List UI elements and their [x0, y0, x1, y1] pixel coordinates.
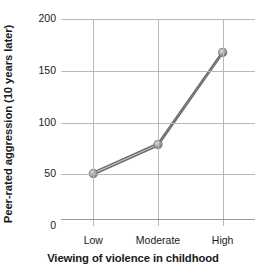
x-axis-tick-labels: LowModerateHigh: [61, 233, 255, 249]
gridline-vertical: [223, 19, 224, 226]
y-axis-tick-label: 200: [20, 13, 56, 24]
gridline-vertical: [158, 19, 159, 226]
y-axis-tick-labels: 050100150200: [14, 0, 56, 276]
y-axis-tick-label: 0: [20, 220, 56, 231]
x-axis-title: Viewing of violence in childhood: [0, 252, 266, 264]
x-axis-tick-label: High: [183, 233, 263, 247]
line-chart: Peer-rated aggression (10 years later) 0…: [0, 0, 266, 276]
y-axis-tick-label: 50: [20, 168, 56, 179]
plot-area: [61, 19, 255, 219]
gridline-vertical: [93, 19, 94, 226]
x-axis-line: [61, 219, 255, 220]
y-axis-tick-label: 150: [20, 65, 56, 76]
y-axis-tick-label: 100: [20, 117, 56, 128]
